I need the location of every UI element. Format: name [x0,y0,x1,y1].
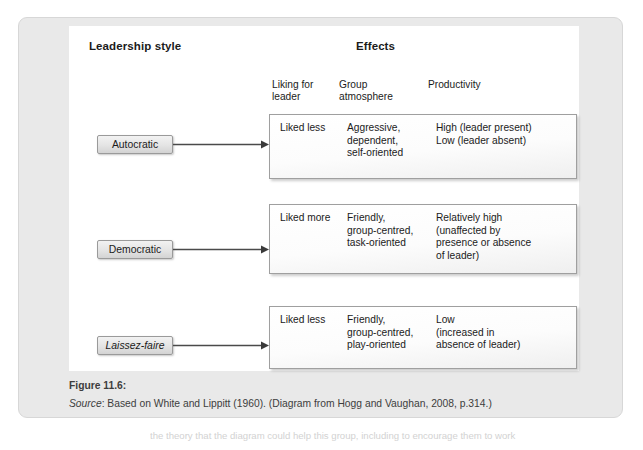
subheading-group-atmosphere: Group atmosphere [339,79,425,104]
effect-atmosphere-autocratic: Aggressive, dependent, self-oriented [347,122,435,160]
effect-productivity-laissez-faire: Low (increased in absence of leader) [436,314,586,352]
effect-atmosphere-laissez-faire: Friendly, group-centred, play-oriented [347,314,435,352]
style-box-autocratic-label: Autocratic [112,139,158,150]
effect-atmosphere-democratic: Friendly, group-centred, task-oriented [347,212,435,250]
effect-box-autocratic: Liked less Aggressive, dependent, self-o… [269,114,577,179]
diagram-panel: Leadership style Effects Liking for lead… [69,26,579,371]
arrow-laissez-faire [173,341,269,350]
caption-figure-number: Figure 11.6: [69,380,614,391]
effect-liking-laissez-faire: Liked less [280,314,348,327]
figure-card: Leadership style Effects Liking for lead… [18,17,623,418]
subheading-productivity: Productivity [428,79,568,91]
caption-source-text: : Based on White and Lippitt (1960). (Di… [102,398,492,409]
effect-liking-autocratic: Liked less [280,122,348,135]
caption-source-line: Source: Based on White and Lippitt (1960… [69,398,614,409]
figure-caption: Figure 11.6: Source: Based on White and … [69,380,614,409]
style-box-laissez-faire[interactable]: Laissez-faire [97,336,173,355]
heading-leadership-style: Leadership style [89,40,181,52]
style-box-democratic[interactable]: Democratic [97,240,173,259]
heading-effects: Effects [356,40,395,52]
style-box-democratic-label: Democratic [109,244,162,255]
effect-productivity-autocratic: High (leader present) Low (leader absent… [436,122,586,147]
arrow-democratic [173,245,269,254]
effect-liking-democratic: Liked more [280,212,348,225]
style-box-autocratic[interactable]: Autocratic [97,135,173,154]
effect-productivity-democratic: Relatively high (unaffected by presence … [436,212,586,262]
effect-box-democratic: Liked more Friendly, group-centred, task… [269,204,577,274]
arrow-autocratic [173,140,269,149]
style-box-laissez-faire-label: Laissez-faire [106,340,165,351]
effect-box-laissez-faire: Liked less Friendly, group-centred, play… [269,306,577,369]
page-bleed-text: the theory that the diagram could help t… [150,430,630,441]
subheading-liking-for-leader: Liking for leader [272,79,338,104]
caption-source-label: Source [69,398,102,409]
